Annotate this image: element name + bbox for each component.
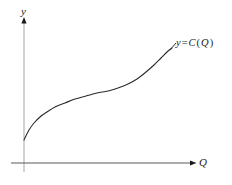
curve-label-close-paren: ) <box>209 37 215 48</box>
cost-curve-path <box>24 48 172 140</box>
x-axis-arrowhead <box>190 160 197 165</box>
curve-label-equals-sign: = <box>181 37 189 48</box>
curve-equation-label: y=C(Q) <box>176 38 214 49</box>
y-axis-arrowhead <box>21 17 26 24</box>
cost-curve-figure: y Q y=C(Q) <box>0 0 232 185</box>
curve-label-y-variable: y <box>176 37 181 48</box>
curve-label-argument: Q <box>201 37 209 48</box>
figure-canvas <box>0 0 232 185</box>
y-axis-label: y <box>21 6 26 17</box>
x-axis-label: Q <box>199 157 207 168</box>
curve-label-function-name: C <box>189 37 196 48</box>
